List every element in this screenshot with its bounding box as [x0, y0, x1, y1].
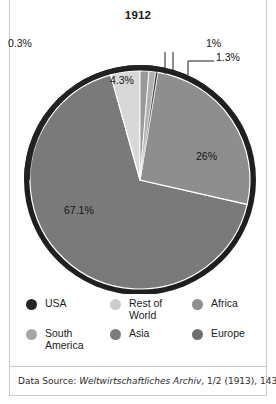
legend-item-africa[interactable]: Africa [192, 298, 238, 310]
source-prefix: Data Source: [18, 376, 79, 386]
legend-item-usa[interactable]: USA [26, 298, 67, 310]
legend-swatch-usa [26, 299, 37, 310]
chart-legend: USA Rest of World Africa South America A… [26, 298, 258, 356]
slice-label-rest-of-world: 4.3% [110, 74, 134, 86]
legend-swatch-rest-of-world [110, 299, 121, 310]
legend-item-south-america[interactable]: South America [26, 328, 107, 351]
legend-swatch-south-america [26, 329, 37, 340]
legend-label-rest-of-world: Rest of World [129, 298, 191, 321]
legend-item-asia[interactable]: Asia [110, 328, 149, 340]
pie-slices [30, 71, 250, 289]
legend-label-south-america: South America [45, 328, 107, 351]
legend-item-europe[interactable]: Europe [192, 328, 245, 340]
legend-swatch-africa [192, 299, 203, 310]
legend-label-usa: USA [45, 298, 67, 310]
figure-divider [10, 366, 266, 367]
pie-chart-figure: 1912 [0, 0, 276, 404]
slice-label-asia: 26% [196, 150, 217, 162]
callout-label-0-3-percent: 0.3% [8, 37, 32, 49]
source-title: Weltwirtschaftliches Archiv [79, 376, 201, 386]
callout-label-1-percent: 1% [206, 37, 221, 49]
legend-label-asia: Asia [129, 328, 149, 340]
slice-label-europe: 67.1% [64, 204, 94, 216]
legend-item-rest-of-world[interactable]: Rest of World [110, 298, 191, 321]
legend-swatch-europe [192, 329, 203, 340]
legend-label-europe: Europe [211, 328, 245, 340]
legend-swatch-asia [110, 329, 121, 340]
legend-label-africa: Africa [211, 298, 238, 310]
pie-chart: 0.3% 1% 1.3% 4.3% 26% 67.1% [18, 52, 258, 294]
pie-svg [18, 52, 258, 294]
callout-label-1-3-percent: 1.3% [216, 51, 240, 63]
chart-title: 1912 [0, 9, 276, 21]
source-suffix: , 1/2 (1913), 143. [201, 376, 276, 386]
source-note: Data Source: Weltwirtschaftliches Archiv… [18, 376, 276, 386]
